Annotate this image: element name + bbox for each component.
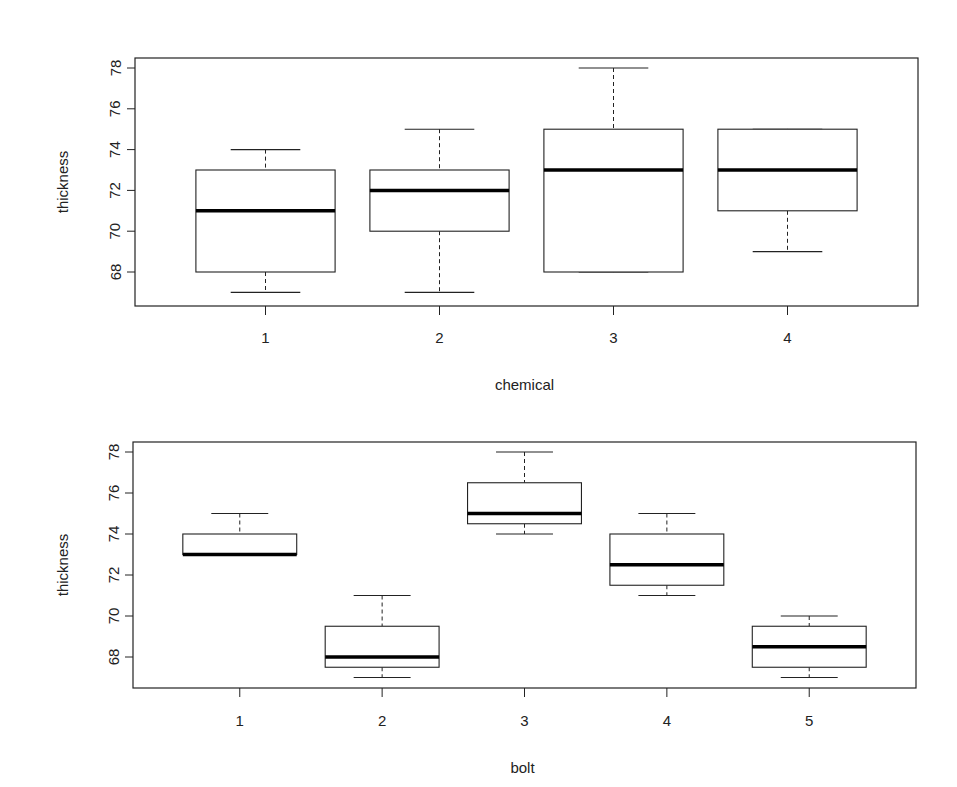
x-tick-label: 1 [236,712,244,729]
box-3 [544,68,683,272]
y-tick-label: 72 [105,567,122,584]
y-tick-label: 78 [107,60,124,77]
chemical-boxplot-panel: 687072747678thickness1234chemical [54,58,919,393]
iqr-box [325,626,439,667]
bolt-boxplot-panel: 687072747678thickness12345bolt [54,442,917,776]
box-5 [752,616,866,678]
box-1 [196,150,335,293]
y-axis-title: thickness [54,534,71,597]
y-tick-label: 70 [105,608,122,625]
x-tick-label: 2 [435,329,443,346]
iqr-box [370,170,509,231]
y-tick-label: 76 [107,100,124,117]
x-tick-label: 3 [609,329,617,346]
x-tick-label: 4 [783,329,791,346]
y-tick-label: 74 [107,141,124,158]
box-2 [325,596,439,678]
iqr-box [468,483,582,524]
iqr-box [183,534,297,555]
x-tick-label: 2 [378,712,386,729]
x-axis-title: bolt [510,759,535,776]
x-tick-label: 4 [663,712,671,729]
y-tick-label: 72 [107,182,124,199]
figure: 687072747678thickness1234chemical 687072… [0,0,957,787]
x-tick-label: 1 [261,329,269,346]
box-2 [370,129,509,292]
y-tick-label: 76 [105,485,122,502]
box-1 [183,514,297,555]
iqr-box [610,534,724,585]
iqr-box [196,170,335,272]
y-tick-label: 74 [105,526,122,543]
x-tick-label: 3 [520,712,528,729]
y-tick-label: 68 [105,649,122,666]
y-tick-label: 70 [107,223,124,240]
box-4 [718,129,857,251]
box-4 [610,514,724,596]
box-3 [468,452,582,534]
y-tick-label: 68 [107,264,124,281]
y-axis-title: thickness [54,151,71,214]
x-tick-label: 5 [805,712,813,729]
iqr-box [544,129,683,272]
x-axis-title: chemical [495,376,554,393]
y-tick-label: 78 [105,444,122,461]
